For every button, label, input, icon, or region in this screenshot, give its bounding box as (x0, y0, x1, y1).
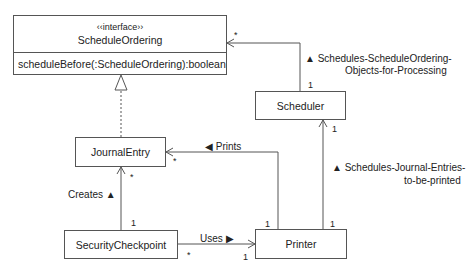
multiplicity: * (173, 156, 177, 166)
stereotype-label: ‹‹interface›› (97, 21, 144, 34)
association-label-uses: Uses ▶ (200, 233, 234, 245)
association-label-schedules-journal-2: to-be-printed (404, 175, 461, 187)
interface-name: ScheduleOrdering (78, 34, 163, 47)
association-label-prints: ◀ Prints (205, 141, 241, 153)
class-name: JournalEntry (91, 146, 150, 158)
multiplicity: 1 (265, 219, 270, 229)
class-journal-entry[interactable]: JournalEntry (75, 137, 166, 167)
multiplicity: 1 (308, 80, 313, 90)
multiplicity: 1 (131, 218, 136, 228)
prints-line (166, 152, 278, 229)
multiplicity: * (187, 250, 191, 260)
multiplicity: * (130, 172, 134, 182)
interface-schedule-ordering[interactable]: ‹‹interface›› ScheduleOrdering scheduleB… (13, 15, 227, 75)
multiplicity: * (234, 30, 238, 40)
class-scheduler[interactable]: Scheduler (255, 91, 346, 120)
multiplicity: 1 (332, 124, 337, 134)
association-label-creates: Creates ▲ (68, 189, 116, 201)
class-name: Printer (286, 238, 317, 250)
association-label-schedules-ordering-2: Objects-for-Processing (345, 65, 447, 77)
class-name: Scheduler (277, 100, 324, 112)
association-label-schedules-ordering-1: ▲ Schedules-ScheduleOrdering- (305, 53, 452, 65)
schedules-ordering-line (227, 43, 300, 91)
interface-header: ‹‹interface›› ScheduleOrdering (14, 16, 226, 53)
interface-operation: scheduleBefore(:ScheduleOrdering):boolea… (14, 53, 226, 75)
class-security-checkpoint[interactable]: SecurityCheckpoint (64, 230, 178, 259)
class-printer[interactable]: Printer (255, 229, 347, 259)
realization-arrowhead (115, 75, 127, 90)
multiplicity: 1 (330, 219, 335, 229)
class-name: SecurityCheckpoint (76, 239, 166, 251)
association-label-schedules-journal-1: ▲ Schedules-Journal-Entries- (332, 162, 465, 174)
multiplicity: 1 (243, 252, 248, 262)
